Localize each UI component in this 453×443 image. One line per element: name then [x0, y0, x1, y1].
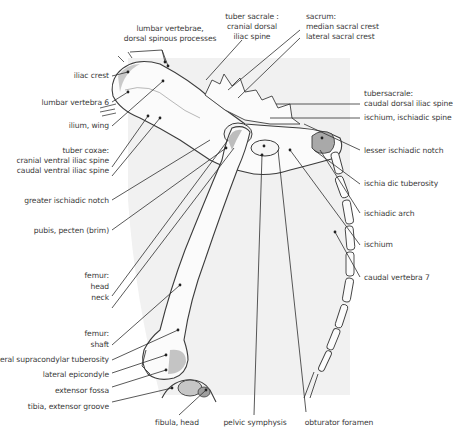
- label-femur-shaft: femur: shaft: [84, 328, 109, 350]
- label-lateral-supracondylar-tuberosity: lateral supracondylar tuberosity: [0, 355, 109, 365]
- label-ilium-wing: ilium, wing: [69, 121, 109, 131]
- label-tuber-sacrale: tuber sacrale : cranial dorsal iliac spi…: [222, 12, 282, 42]
- obturator-foramen-shape: [251, 140, 279, 156]
- label-lumbar-vertebrae: lumbar vertebrae, dorsal spinous process…: [122, 24, 218, 44]
- label-tuber-sacrale-caudal: tubersacrale: caudal dorsal iliac spine: [364, 89, 453, 109]
- label-pubis-pecten: pubis, pecten (brim): [34, 226, 109, 236]
- label-tuber-coxae: tuber coxae: cranial ventral iliac spine…: [16, 146, 109, 176]
- label-lateral-epicondyle: lateral epicondyle: [43, 370, 109, 380]
- label-femur-head-neck: femur: head neck: [84, 270, 109, 303]
- label-ischiadic-tuberosity: ischia dic tuberosity: [364, 179, 438, 189]
- label-ischiadic-arch: ischiadic arch: [364, 209, 415, 219]
- label-extensor-fossa: extensor fossa: [55, 386, 109, 396]
- label-sacrum: sacrum: median sacral crest lateral sacr…: [306, 12, 379, 42]
- label-fibula-head: fibula, head: [142, 418, 212, 428]
- label-lumbar-vertebra-6: lumbar vertebra 6: [42, 98, 109, 108]
- label-obturator-foramen: obturator foramen: [294, 418, 384, 428]
- label-caudal-vertebra-7: caudal vertebra 7: [364, 273, 430, 283]
- label-lesser-ischiadic-notch: lesser ischiadic notch: [364, 146, 443, 156]
- label-ischiadic-spine: ischium, ischiadic spine: [364, 113, 452, 123]
- label-iliac-crest: iliac crest: [74, 71, 109, 81]
- label-tibia-extensor-groove: tibia, extensor groove: [28, 402, 109, 412]
- label-pelvic-symphysis: pelvic symphysis: [210, 418, 300, 428]
- label-ischium: ischium: [364, 240, 393, 250]
- label-greater-ischiadic-notch: greater ischiadic notch: [24, 196, 109, 206]
